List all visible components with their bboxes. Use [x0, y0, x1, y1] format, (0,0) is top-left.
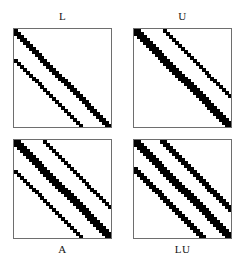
panel-label-LU: LU: [133, 243, 232, 255]
panel-label-U: U: [133, 10, 232, 22]
spy-canvas-LU: [134, 140, 231, 238]
spy-plot-figure: L U A LU: [0, 0, 245, 270]
panel-label-A: A: [13, 243, 112, 255]
spy-canvas-A: [14, 140, 111, 238]
matrix-panel-L: [13, 28, 112, 128]
matrix-panel-U: [133, 28, 232, 128]
panel-label-L: L: [13, 10, 112, 22]
spy-canvas-L: [14, 29, 111, 127]
matrix-panel-A: [13, 139, 112, 239]
spy-canvas-U: [134, 29, 231, 127]
matrix-panel-LU: [133, 139, 232, 239]
